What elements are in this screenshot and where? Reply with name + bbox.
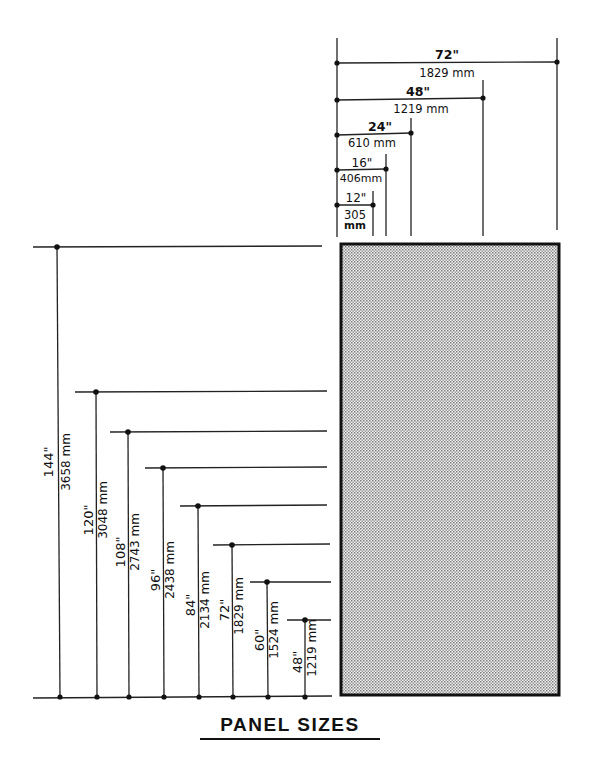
- width-12-mm-unit-label: mm: [344, 219, 366, 231]
- height-60-mm-label: 1524 mm: [267, 601, 281, 659]
- height-96-mm-label: 2438 mm: [163, 541, 177, 599]
- width-48-mm-label: 1219 mm: [393, 102, 448, 116]
- height-108-mm-label: 2743 mm: [128, 513, 142, 571]
- height-108-inches-label: 108": [113, 537, 128, 568]
- width-72-mm-label: 1829 mm: [419, 66, 474, 80]
- width-12-inches-label: 12": [346, 191, 367, 205]
- height-60-inches-label: 60": [252, 629, 267, 652]
- height-72-mm-label: 1829 mm: [232, 577, 246, 635]
- width-24-mm-label: 610 mm: [348, 136, 396, 150]
- height-84-mm-label: 2134 mm: [198, 571, 212, 629]
- height-dimensions: [33, 246, 332, 698]
- panel-sizes-diagram: 72" 1829 mm 48" 1219 mm 24" 610 mm 16" 4…: [0, 0, 590, 775]
- width-16-inches-label: 16": [352, 156, 373, 170]
- diagram-title: PANEL SIZES: [200, 714, 380, 740]
- height-72-inches-label: 72": [217, 599, 232, 622]
- width-16-mm-label: 406mm: [340, 172, 382, 185]
- panel-rectangle: [341, 244, 559, 695]
- width-48-inches-label: 48": [406, 84, 430, 99]
- height-120-mm-label: 3048 mm: [96, 481, 110, 539]
- height-144-mm-label: 3658 mm: [59, 433, 73, 491]
- height-48-mm-label: 1219 mm: [305, 619, 319, 677]
- width-72-inches-label: 72": [435, 47, 459, 62]
- width-24-inches-label: 24": [368, 119, 392, 134]
- height-48-inches-label: 48": [290, 651, 305, 674]
- height-120-inches-label: 120": [81, 505, 96, 536]
- height-144-inches-label: 144": [41, 447, 56, 478]
- height-84-inches-label: 84": [183, 594, 198, 617]
- height-96-inches-label: 96": [148, 569, 163, 592]
